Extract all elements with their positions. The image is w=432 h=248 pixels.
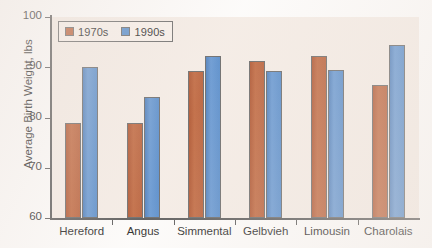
legend-label-1970s: 1970s	[78, 26, 108, 38]
bar-hereford-1970s	[65, 123, 81, 218]
x-label-simmental: Simmental	[174, 225, 235, 237]
legend-label-1990s: 1990s	[134, 26, 164, 38]
x-label-charolais: Charolais	[358, 225, 419, 237]
x-label-gelbvieh: Gelbvieh	[235, 225, 296, 237]
legend-entry-1990s: 1990s	[121, 26, 164, 38]
bar-gelbvieh-1990s	[266, 71, 282, 218]
bar-chart-figure: Average Birth Weight, lbs 60708090100 He…	[0, 0, 432, 248]
y-tick-label-90: 90	[14, 59, 42, 71]
bar-charolais-1990s	[389, 45, 405, 218]
legend-swatch-1970s-icon	[65, 27, 74, 36]
x-label-limousin: Limousin	[296, 225, 357, 237]
y-tick-100	[45, 17, 52, 18]
plot-area	[51, 17, 419, 218]
bar-gelbvieh-1970s	[249, 61, 265, 218]
bar-hereford-1990s	[82, 67, 98, 218]
y-tick-label-60: 60	[14, 210, 42, 222]
y-tick-80	[45, 118, 52, 119]
y-tick-60	[45, 218, 52, 219]
bar-charolais-1970s	[372, 85, 388, 218]
bar-simmental-1990s	[205, 56, 221, 218]
y-tick-90	[45, 67, 52, 68]
y-tick-label-100: 100	[14, 9, 42, 21]
bar-limousin-1990s	[328, 70, 344, 218]
y-tick-label-70: 70	[14, 160, 42, 172]
y-tick-70	[45, 168, 52, 169]
bar-angus-1990s	[144, 97, 160, 218]
legend-entry-1970s: 1970s	[65, 26, 108, 38]
x-label-angus: Angus	[112, 225, 173, 237]
bar-limousin-1970s	[311, 56, 327, 218]
legend-swatch-1990s-icon	[121, 27, 130, 36]
y-tick-label-80: 80	[14, 110, 42, 122]
chart-legend: 1970s 1990s	[58, 21, 173, 42]
bar-simmental-1970s	[188, 71, 204, 218]
bar-angus-1970s	[127, 123, 143, 218]
x-label-hereford: Hereford	[51, 225, 112, 237]
